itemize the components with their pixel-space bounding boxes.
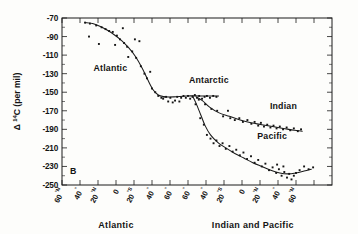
data-point xyxy=(101,26,103,28)
x-tick-label: 20°N xyxy=(247,186,265,205)
x-tick-label: 60°N xyxy=(283,186,301,205)
data-point xyxy=(219,145,221,147)
data-point xyxy=(84,22,86,24)
data-point xyxy=(95,24,97,26)
data-point xyxy=(204,103,206,105)
data-point xyxy=(300,128,302,130)
data-point xyxy=(289,129,291,131)
series-label-atlantic: Atlantic xyxy=(94,63,128,73)
y-tick-label: -70 xyxy=(47,14,59,23)
x-tick-label-group: 40° xyxy=(267,186,283,201)
data-point xyxy=(242,152,244,154)
data-point xyxy=(154,91,156,93)
fit-curves xyxy=(85,23,311,174)
data-point xyxy=(288,173,290,175)
data-point xyxy=(268,169,270,171)
data-point xyxy=(194,94,196,96)
x-tick-label: 40° xyxy=(141,186,157,201)
data-point xyxy=(261,165,263,167)
data-point xyxy=(167,101,169,103)
series-annotations: AtlanticAntarcticIndianPacificB xyxy=(70,63,297,176)
data-point xyxy=(178,101,180,103)
data-point xyxy=(242,121,244,123)
data-point xyxy=(198,95,200,97)
data-point xyxy=(127,56,129,58)
data-point xyxy=(269,127,271,129)
data-point xyxy=(272,166,274,168)
x-tick-label: 20°S xyxy=(121,186,139,205)
x-tick-label-group: 20°N xyxy=(247,186,265,205)
figure-panel-b: -70-90-110-130-150-170-190-210-230-250 6… xyxy=(0,0,358,234)
data-point xyxy=(238,117,240,119)
data-point xyxy=(201,98,203,100)
data-point xyxy=(246,158,248,160)
data-point xyxy=(165,96,167,98)
x-tick-label: 40° xyxy=(195,186,211,201)
data-point xyxy=(291,178,293,180)
data-point xyxy=(213,142,215,144)
data-point xyxy=(228,145,230,147)
x-tick-label: 40° xyxy=(69,186,85,201)
point-group-atlantic xyxy=(84,22,162,99)
data-point xyxy=(276,164,278,166)
data-point xyxy=(131,50,133,52)
y-tick-label: -170 xyxy=(42,107,58,116)
x-tick-label-group: 20°S xyxy=(211,186,229,205)
data-point xyxy=(216,110,218,112)
data-point xyxy=(174,100,176,102)
data-point xyxy=(286,127,288,129)
data-point xyxy=(215,96,217,98)
data-point xyxy=(206,95,208,97)
x-tick-label: 0 xyxy=(111,188,121,196)
x-tick-label-group: 40° xyxy=(141,186,157,201)
data-point xyxy=(278,168,280,170)
data-point xyxy=(88,36,90,38)
data-point xyxy=(308,168,310,170)
y-tick-label: -230 xyxy=(42,162,58,171)
series-label-pacific: Pacific xyxy=(257,131,287,141)
data-point xyxy=(273,125,275,127)
data-point xyxy=(183,95,185,97)
data-point xyxy=(222,115,224,117)
y-tick-label: -150 xyxy=(42,88,58,97)
data-point xyxy=(210,138,212,140)
series-label-b: B xyxy=(70,166,77,176)
data-point xyxy=(210,108,212,110)
data-point xyxy=(198,99,200,101)
x-tick-label: 60° xyxy=(177,186,193,201)
data-point xyxy=(189,98,191,100)
y-tick-label: -210 xyxy=(42,144,58,153)
data-point xyxy=(312,166,314,168)
series-label-indian: Indian xyxy=(270,101,297,111)
data-point xyxy=(293,175,295,177)
data-point xyxy=(257,125,259,127)
x-tick-label: 0 xyxy=(237,188,247,196)
data-point xyxy=(185,97,187,99)
x-axis-tick-labels: 60°N40°20°N020°S40°60°60°40°20°S020°N40°… xyxy=(49,186,301,205)
data-point xyxy=(98,43,100,45)
data-point xyxy=(140,65,142,67)
data-point xyxy=(114,44,116,46)
data-point xyxy=(134,38,136,40)
data-point xyxy=(169,97,171,99)
x-tick-label-group: 60° xyxy=(159,186,175,201)
data-point xyxy=(196,97,198,99)
data-point xyxy=(279,126,281,128)
data-point xyxy=(234,119,236,121)
data-point xyxy=(116,35,118,37)
data-point xyxy=(295,172,297,174)
data-point xyxy=(260,122,262,124)
data-point xyxy=(119,38,121,40)
data-point xyxy=(146,77,148,79)
y-tick-label: -130 xyxy=(42,70,58,79)
data-point xyxy=(239,154,241,156)
data-point xyxy=(254,162,256,164)
data-point xyxy=(250,123,252,125)
data-point xyxy=(126,46,128,48)
x-axis-title-indian-pacific: Indian and Pacific xyxy=(212,220,294,230)
x-tick-label-group: 0 xyxy=(237,188,247,196)
data-point xyxy=(225,148,227,150)
y-tick-label: -90 xyxy=(47,33,59,42)
y-axis-title: Δ 14C (per mil) xyxy=(12,73,22,131)
data-point xyxy=(227,110,229,112)
